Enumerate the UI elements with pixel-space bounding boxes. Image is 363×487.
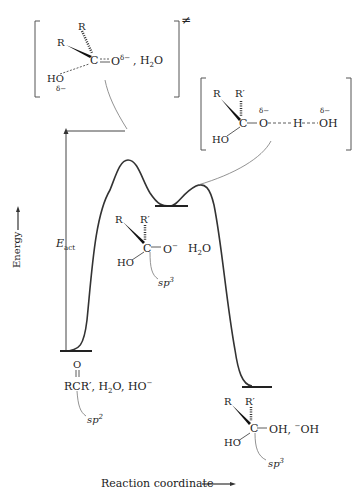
prod-hybridization: sp3: [268, 458, 284, 469]
reactant-carbonyl-oxygen: O: [73, 360, 81, 370]
int-oxide: O−: [163, 243, 178, 255]
ts2-hydrogen: H: [293, 118, 303, 129]
ts1-hydroxyl-charge: δ−: [56, 86, 66, 93]
ts1-leader-line: [105, 80, 127, 129]
ts1-hydroxyl: HO: [47, 74, 64, 84]
ts2-oxygen-charge: δ−: [259, 108, 269, 115]
reaction-coordinate-label: Reaction coordinate: [101, 478, 213, 487]
prod-r: R: [224, 397, 232, 407]
prod-hydroxyl: HO: [224, 438, 241, 448]
ts1-oxygen: Oδ−: [111, 55, 130, 67]
ts2-carbon: C: [239, 118, 247, 129]
prod-carbon: C: [250, 423, 258, 434]
prod-r-prime: R′: [245, 397, 255, 407]
activation-energy-label: Eact: [56, 238, 75, 252]
ts1-water: , H2O: [133, 55, 163, 69]
ts2-hydroxyl: HO: [212, 135, 229, 145]
int-hydroxyl: HO: [117, 258, 134, 268]
int-r-prime: R′: [140, 215, 150, 225]
ts2-oxygen: O: [259, 118, 268, 129]
ts1-r-left: R: [57, 38, 65, 48]
ts2-r: R: [213, 89, 221, 99]
ts1-r-top: R: [78, 22, 86, 32]
ts1-hash-bond: [82, 31, 92, 53]
reaction-arrowhead-icon: [230, 482, 236, 486]
int-water: H2O: [188, 243, 211, 257]
ts2-leader-line: [198, 141, 271, 185]
reactant-hybridization: sp2: [87, 414, 103, 425]
transition-state-symbol: ≠: [181, 14, 191, 26]
int-hybridization: sp3: [158, 277, 174, 288]
ts1-left-bracket: [35, 21, 40, 97]
prod-wedge-bond: [232, 405, 251, 425]
reactant-formula: RCR′, H2O, HO−: [64, 380, 152, 395]
ts2-right-bracket: [346, 78, 351, 150]
int-sp3-leader: [150, 252, 158, 279]
ts1-right-bracket: [174, 21, 179, 97]
ts2-left-bracket: [201, 78, 206, 150]
int-r: R: [115, 215, 123, 225]
prod-hydroxyls: OH, −OH: [269, 423, 319, 435]
ts2-hydroxide-charge: δ−: [320, 108, 330, 115]
ts2-r-prime: R′: [235, 89, 245, 99]
energy-axis-label: Energy: [12, 232, 22, 269]
energy-arrowhead-icon: [16, 206, 20, 212]
int-wedge-bond: [123, 222, 145, 244]
ts1-carbon: C: [90, 55, 98, 66]
ts2-hydroxide: OH: [319, 118, 338, 129]
prod-sp3-leader: [255, 433, 266, 460]
int-carbon: C: [143, 243, 151, 254]
ts2-wedge-bond: [221, 99, 241, 121]
ts1-hc-partial-bond: [60, 64, 89, 74]
reaction-energy-curve: [64, 160, 252, 386]
